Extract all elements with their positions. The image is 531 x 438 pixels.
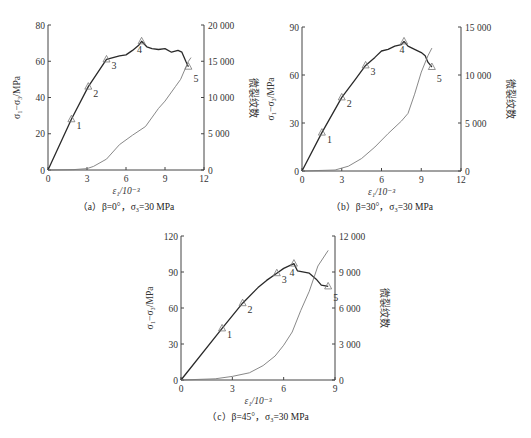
crack-count-curve <box>48 58 191 170</box>
y2-tick-label: 5 000 <box>208 129 230 139</box>
x-axis-label: ε₁/10⁻³ <box>244 396 271 406</box>
point-marker-icon <box>401 37 408 44</box>
y-tick-label: 60 <box>290 71 300 81</box>
crack-count-curve <box>181 250 328 380</box>
x-axis-label: ε₁/10⁻³ <box>112 186 139 196</box>
x-tick-label: 12 <box>456 175 466 185</box>
chart-b: 036912030609005 00010 00015 00012345ε₁/1… <box>266 23 517 213</box>
y2-tick-label: 12 000 <box>339 232 365 242</box>
x-axis-label: ε₁/10⁻³ <box>368 187 395 197</box>
point-label: 4 <box>289 267 294 278</box>
y2-tick-label: 10 000 <box>208 93 234 103</box>
y-tick-label: 120 <box>164 232 179 242</box>
y-axis-label: σ₁−σ₃/MPa <box>266 77 276 121</box>
point-label: 2 <box>248 304 253 315</box>
y2-tick-label: 20 000 <box>208 21 234 31</box>
y2-axis-label: 微裂纹数 <box>248 78 260 118</box>
point-label: 2 <box>347 98 352 109</box>
x-tick-label: 3 <box>339 175 344 185</box>
x-tick-label: 6 <box>124 174 129 184</box>
chart-caption: （a）β=0°，σ₃=30 MPa <box>78 201 175 212</box>
chart-caption: （b）β=30°，σ₃=30 MPa <box>331 201 434 212</box>
y-tick-label: 80 <box>36 21 46 31</box>
y-tick-label: 0 <box>40 166 45 176</box>
stress-strain-curve <box>181 264 328 380</box>
y2-axis-label: 微裂纹数 <box>379 288 391 328</box>
point-label: 4 <box>137 44 142 55</box>
y-tick-label: 90 <box>169 268 179 278</box>
point-label: 2 <box>93 88 98 99</box>
x-tick-label: 9 <box>333 384 338 394</box>
point-marker-icon <box>138 37 145 44</box>
point-label: 4 <box>400 44 405 55</box>
y-tick-label: 60 <box>169 304 179 314</box>
x-tick-label: 3 <box>85 174 90 184</box>
chart-caption: （c）β=45°，σ₃=30 MPa <box>207 411 309 422</box>
y2-tick-label: 15 000 <box>208 57 234 67</box>
y-tick-label: 30 <box>290 119 300 129</box>
y-tick-label: 60 <box>36 57 46 67</box>
x-tick-label: 6 <box>379 175 384 185</box>
y2-tick-label: 0 <box>465 167 470 177</box>
y-tick-label: 0 <box>294 167 299 177</box>
point-label: 3 <box>282 274 287 285</box>
x-tick-label: 9 <box>419 175 424 185</box>
x-tick-label: 0 <box>46 174 51 184</box>
point-label: 1 <box>227 329 232 340</box>
y-tick-label: 40 <box>36 93 46 103</box>
y-tick-label: 30 <box>169 340 179 350</box>
y2-tick-label: 3 000 <box>339 340 361 350</box>
y2-tick-label: 0 <box>208 166 213 176</box>
x-tick-label: 0 <box>179 384 184 394</box>
y2-tick-label: 10 000 <box>465 71 491 81</box>
point-label: 3 <box>371 66 376 77</box>
point-label: 5 <box>437 73 442 84</box>
y-tick-label: 90 <box>290 23 300 33</box>
y2-tick-label: 15 000 <box>465 23 491 33</box>
stress-strain-curve <box>48 41 188 170</box>
y2-axis-label: 微裂纹数 <box>505 79 517 119</box>
x-tick-label: 3 <box>230 384 235 394</box>
stress-strain-curve <box>302 41 432 171</box>
point-label: 3 <box>112 60 117 71</box>
y2-tick-label: 9 000 <box>339 268 361 278</box>
x-tick-label: 0 <box>300 175 305 185</box>
figure: 03691202040608005 00010 00015 00020 0001… <box>0 0 531 438</box>
y-tick-label: 0 <box>173 376 178 386</box>
crack-count-curve <box>302 48 432 171</box>
point-label: 5 <box>333 292 338 303</box>
x-tick-label: 6 <box>281 384 286 394</box>
chart-c: 0369030609012003 0006 0009 00012 0001234… <box>145 232 391 423</box>
point-label: 1 <box>327 134 332 145</box>
x-tick-label: 12 <box>199 174 209 184</box>
y2-tick-label: 6 000 <box>339 304 361 314</box>
y-axis-label: σ₁−σ₃/MPa <box>12 75 22 119</box>
y-tick-label: 20 <box>36 129 46 139</box>
chart-a: 03691202040608005 00010 00015 00020 0001… <box>12 21 260 213</box>
point-label: 5 <box>193 73 198 84</box>
x-tick-label: 9 <box>163 174 168 184</box>
y2-tick-label: 0 <box>339 376 344 386</box>
point-label: 1 <box>76 120 81 131</box>
y-axis-label: σ₁−σ₃/MPa <box>145 286 155 330</box>
y2-tick-label: 5 000 <box>465 119 487 129</box>
